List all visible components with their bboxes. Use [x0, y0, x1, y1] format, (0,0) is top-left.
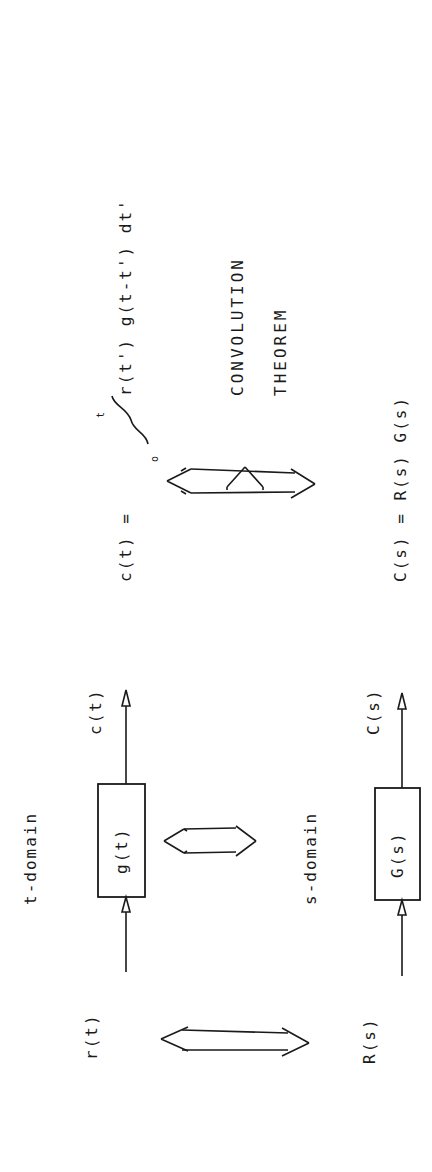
s-domain-block-label: G(s): [388, 831, 407, 878]
theorem-title-line1: CONVOLUTION: [228, 257, 247, 396]
s-output-arrowhead-icon: [398, 693, 406, 709]
s-domain-label: s-domain: [301, 812, 320, 905]
s-domain-input-label: R(s): [360, 1017, 379, 1064]
t-domain-block-label: g(t): [112, 827, 131, 874]
s-input-arrowhead-icon: [398, 900, 406, 915]
integral-lower-limit: o: [149, 455, 160, 462]
signal-transform-double-arrow-icon: [161, 1027, 309, 1056]
time-equation-lhs: c(t) =: [116, 512, 135, 582]
t-domain-output-label: c(t): [86, 688, 105, 735]
laplace-equation: C(s) = R(s) G(s): [391, 396, 410, 582]
t-domain-input-label: r(t): [82, 1013, 101, 1060]
t-output-arrowhead-icon: [122, 690, 130, 706]
domain-transform-double-arrow-icon: [164, 826, 256, 856]
s-domain-output-label: C(s): [364, 688, 383, 735]
integral-sign-icon: [112, 396, 148, 444]
t-input-arrowhead-icon: [122, 897, 130, 912]
theorem-title-line2: THEOREM: [271, 308, 290, 396]
convolution-diagram: c(t) = o t r(t') g(t-t') dt' CONVOLUTION…: [0, 0, 432, 1172]
t-domain-label: t-domain: [21, 812, 40, 905]
time-equation-rhs: r(t') g(t-t') dt': [116, 198, 135, 396]
integral-upper-limit: t: [95, 411, 106, 418]
